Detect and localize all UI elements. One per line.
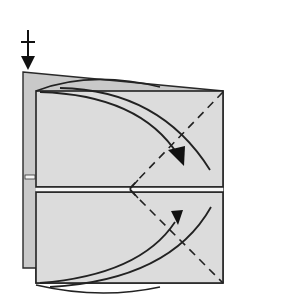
origami-diagram (0, 0, 283, 297)
center-slit (36, 187, 223, 192)
upper-front-panel (36, 91, 223, 187)
left-notch (25, 175, 35, 179)
lower-front-panel (36, 192, 223, 283)
push-down-arrow-icon (21, 30, 35, 70)
